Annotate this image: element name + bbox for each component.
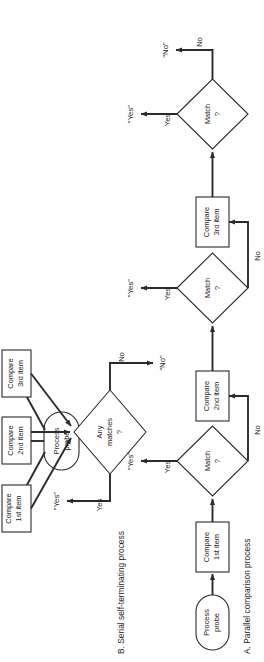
panel-b-match3-no-edge-label: No [195, 37, 204, 47]
panel-b-match2-no-edge-label: No [253, 251, 262, 261]
panel-b-match1-yes-edge-label: Yes [163, 461, 172, 474]
panel-a-no-edge-label: No [117, 352, 126, 362]
panel-a-yes-output-label: “Yes” [52, 492, 61, 510]
panel-b-match1-no-edge-label: No [253, 425, 262, 435]
panel-a-decision-label-line1: Any [95, 425, 104, 438]
panel-a-edge-yes [67, 474, 110, 501]
panel-a-caption: A. Parallel comparison process [242, 539, 252, 654]
flowchart-svg: Process probe Compare 1st item Compare 2… [0, 0, 264, 662]
panel-b-edge-match3-no [176, 50, 213, 79]
panel-a-compare1-label-line1: Compare [4, 493, 13, 523]
panel-b-compare1-label-line1: Compare [202, 532, 211, 562]
panel-a-compare1-label-line2: 1st item [14, 496, 23, 522]
panel-a-decision-label-line2: matches [105, 418, 114, 446]
panel-b-compare1-label-line2: 1st item [212, 534, 221, 560]
panel-b-match3-label-line1: Match [203, 104, 212, 124]
panel-b-match2-label-line2: ? [213, 286, 222, 290]
panel-a-compare2-label-line1: Compare [6, 425, 15, 455]
panel-b-compare3-label-line2: 3rd item [212, 209, 221, 236]
panel-b-caption: B. Serial self-terminating process [116, 531, 126, 654]
panel-b: Process probe Compare 1st item Match ? Y… [116, 37, 262, 654]
panel-b-compare3-label-line1: Compare [202, 207, 211, 237]
panel-a-decision-label-line3: ? [115, 430, 124, 434]
panel-b-start-label-line1: Process [202, 609, 211, 636]
panel-a-compare3-label-line2: 3rd item [16, 360, 25, 387]
panel-a-compare3-label-line1: Compare [6, 358, 15, 388]
figure-root: Process probe Compare 1st item Compare 2… [0, 0, 264, 662]
panel-b-match1-label-line1: Match [203, 451, 212, 471]
panel-a-yes-edge-label: Yes [95, 499, 104, 512]
rotated-figure-canvas: Process probe Compare 1st item Compare 2… [0, 0, 264, 662]
panel-b-compare2-label-line2: 2nd item [212, 382, 221, 410]
panel-b-start-label-line2: probe [212, 613, 221, 632]
panel-b-match1-label-line2: ? [213, 459, 222, 463]
panel-b-match3-yes-output-label: “Yes” [126, 105, 135, 123]
panel-b-match3-yes-edge-label: Yes [163, 114, 172, 127]
panel-b-match2-yes-output-label: “Yes” [126, 279, 135, 297]
panel-a-edge-no [110, 363, 153, 390]
panel-a-no-output-label: “No” [158, 355, 167, 371]
panel-b-match2-label-line1: Match [203, 278, 212, 298]
panel-b-match1-yes-output-label: “Yes” [126, 452, 135, 470]
panel-b-match3-label-line2: ? [213, 112, 222, 116]
panel-b-match3-no-output-label: “No” [161, 42, 170, 58]
panel-b-compare2-label-line1: Compare [202, 381, 211, 411]
panel-a-compare2-label-line2: 2nd item [16, 426, 25, 454]
panel-b-match2-yes-edge-label: Yes [163, 288, 172, 301]
